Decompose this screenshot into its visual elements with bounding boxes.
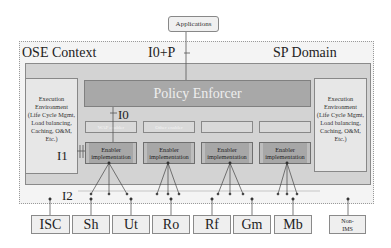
interface-label: Rf: [205, 217, 219, 233]
interface-label: Sh: [84, 217, 99, 233]
non-ims-line: IMS: [341, 225, 353, 233]
interface-label: Gm: [242, 217, 263, 233]
interface-ro-box: Ro: [152, 215, 190, 234]
interface-label: Ro: [163, 217, 179, 233]
interface-isc-box: ISC: [31, 215, 70, 234]
interface-label: Mb: [283, 217, 302, 233]
non-ims-box: Non-IMS: [329, 215, 366, 234]
non-ims-line: Non-: [341, 217, 353, 225]
interface-label: ISC: [40, 217, 62, 233]
interface-rf-box: Rf: [193, 215, 231, 234]
interface-label: Ut: [124, 217, 138, 233]
interface-sh-box: Sh: [72, 215, 110, 234]
interface-mb-box: Mb: [274, 215, 312, 234]
connector-lines: [0, 0, 391, 248]
interface-ut-box: Ut: [112, 215, 150, 234]
interface-gm-box: Gm: [233, 215, 271, 234]
